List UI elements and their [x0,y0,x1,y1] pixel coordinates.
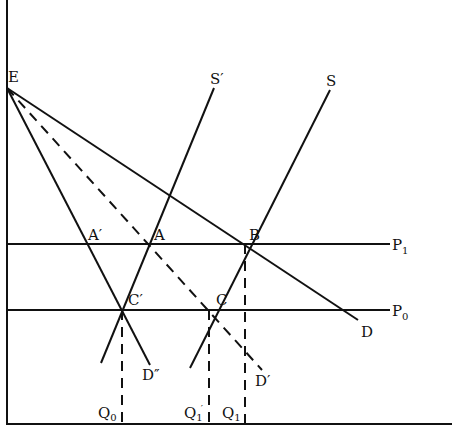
label-b: B [249,226,260,244]
label-c-prime: C′ [128,291,143,309]
label-q0: Q0 [98,404,117,423]
demand-curve-d-prime [7,88,262,370]
label-s-prime: S′ [210,70,224,88]
demand-curve-d-double-prime [7,88,150,365]
label-a-prime: A′ [87,226,103,244]
label-e: E [8,68,19,86]
label-d-prime: D′ [255,372,271,390]
supply-demand-diagram: E S′ S A′ A B C′ C P1 P0 D D″ D′ Q0 Q1′ … [0,0,452,430]
label-q1: Q1 [222,404,241,423]
label-p1: P1 [392,236,408,256]
label-a: A [153,226,165,244]
label-d-double-prime: D″ [142,366,160,384]
label-p0: P0 [392,302,408,322]
demand-curve-d [7,88,358,320]
diagram-canvas: E S′ S A′ A B C′ C P1 P0 D D″ D′ Q0 Q1′ … [0,0,452,430]
label-c: C [216,291,227,309]
label-d: D [361,323,373,341]
label-q1-prime: Q1′ [184,403,204,423]
label-s: S [326,72,336,90]
